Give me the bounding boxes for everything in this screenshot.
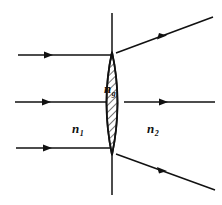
- top-incident-ray-arrowhead: [44, 51, 53, 58]
- label-n2: n2: [147, 121, 159, 138]
- optics-diagram-canvas: n1 n2 ng: [0, 0, 222, 205]
- bottom-refracted-ray: [116, 154, 215, 190]
- label-ng-symbol: n: [104, 81, 111, 96]
- lens-hatch-fill: [96, 46, 130, 162]
- refracted-ray-group: [116, 17, 215, 190]
- label-ng-subscript: g: [111, 89, 116, 98]
- label-n1-symbol: n: [72, 121, 79, 136]
- label-n2-symbol: n: [147, 121, 154, 136]
- biconvex-lens: [96, 46, 130, 162]
- middle-refracted-ray-arrowhead: [159, 98, 168, 105]
- label-n1-subscript: 1: [80, 129, 84, 138]
- incident-ray-group: [15, 51, 112, 151]
- label-n2-subscript: 2: [154, 129, 159, 138]
- bottom-incident-ray-arrowhead: [43, 144, 52, 151]
- label-n1: n1: [72, 121, 84, 138]
- middle-incident-ray-arrowhead: [42, 98, 51, 105]
- optics-diagram-figure: n1 n2 ng: [0, 0, 222, 205]
